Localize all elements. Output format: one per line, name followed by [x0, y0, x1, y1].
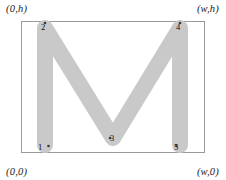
corner-label-bottom-right: (w,0)	[197, 166, 219, 177]
vertex-label-5: 5	[174, 143, 178, 152]
letter-m-polyline	[45, 28, 180, 145]
corner-label-top-left: (0,h)	[6, 3, 27, 14]
corner-label-top-right: (w,h)	[197, 3, 219, 14]
vertex-label-2: 2	[41, 23, 45, 32]
corner-label-bottom-left: (0,0)	[6, 166, 27, 177]
figure-canvas	[0, 0, 226, 180]
vertex-dot-1	[47, 145, 50, 148]
geometry-figure: (0,h) (w,h) (0,0) (w,0) 1 2 3 4 5	[0, 0, 226, 180]
vertex-label-3: 3	[110, 134, 114, 143]
vertex-label-1: 1	[38, 143, 42, 152]
vertex-label-4: 4	[176, 23, 180, 32]
